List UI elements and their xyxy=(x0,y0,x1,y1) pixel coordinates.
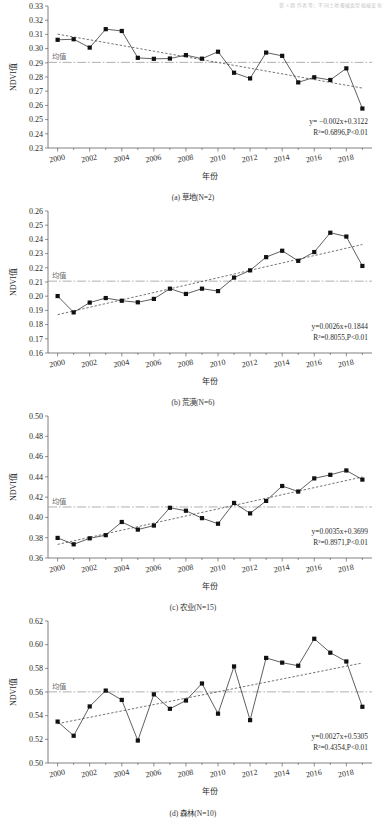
y-axis-title: NDVI值 xyxy=(8,63,18,91)
data-point-marker xyxy=(328,651,332,655)
x-axis-title: 年份 xyxy=(202,376,218,386)
panel-c: 0.360.380.400.420.440.460.480.5020002002… xyxy=(0,410,386,615)
panel-b: 0.160.170.180.190.200.210.220.230.240.25… xyxy=(0,205,386,410)
data-point-marker xyxy=(296,259,300,263)
axis-frame xyxy=(48,6,372,148)
x-tick-label: 2010 xyxy=(209,563,226,575)
data-point-marker xyxy=(248,268,252,272)
x-tick-label: 2008 xyxy=(177,153,194,165)
mean-label: 均值 xyxy=(52,682,67,691)
y-tick-label: 0.54 xyxy=(29,711,43,720)
x-tick-label: 2006 xyxy=(145,768,162,780)
y-tick-label: 0.23 xyxy=(29,249,43,258)
x-axis-title: 年份 xyxy=(202,786,218,796)
y-tick-label: 0.33 xyxy=(29,2,43,11)
y-tick-label: 0.29 xyxy=(29,59,43,68)
data-series-line xyxy=(58,233,363,313)
data-point-marker xyxy=(168,707,172,711)
y-axis-title: NDVI值 xyxy=(8,473,18,501)
chart-a: 0.230.240.250.260.270.280.290.300.310.32… xyxy=(0,0,386,205)
data-point-marker xyxy=(56,536,60,540)
data-point-marker xyxy=(232,501,236,505)
regression-stats: R²=0.6896,P<0.01 xyxy=(313,128,368,137)
chart-c: 0.360.380.400.420.440.460.480.5020002002… xyxy=(0,410,386,615)
data-point-marker xyxy=(232,276,236,280)
x-tick-label: 2010 xyxy=(209,153,226,165)
data-point-marker xyxy=(328,78,332,82)
data-point-marker xyxy=(216,712,220,716)
y-tick-label: 0.20 xyxy=(29,292,43,301)
x-tick-label: 2004 xyxy=(113,358,130,370)
data-point-marker xyxy=(312,637,316,641)
data-point-marker xyxy=(184,292,188,296)
chart-b: 0.160.170.180.190.200.210.220.230.240.25… xyxy=(0,205,386,410)
data-point-marker xyxy=(296,664,300,668)
y-tick-label: 0.25 xyxy=(29,221,43,230)
x-tick-label: 2018 xyxy=(337,563,354,575)
data-point-marker xyxy=(360,705,364,709)
data-point-marker xyxy=(88,536,92,540)
data-point-marker xyxy=(184,53,188,57)
data-point-marker xyxy=(104,296,108,300)
data-point-marker xyxy=(200,516,204,520)
data-point-marker xyxy=(360,478,364,482)
y-tick-label: 0.25 xyxy=(29,115,43,124)
data-point-marker xyxy=(152,692,156,696)
data-point-marker xyxy=(216,50,220,54)
data-point-marker xyxy=(264,50,268,54)
x-tick-label: 2018 xyxy=(337,768,354,780)
mean-label: 均值 xyxy=(52,271,67,280)
x-axis-title: 年份 xyxy=(202,171,218,181)
data-point-marker xyxy=(184,509,188,513)
y-tick-label: 0.52 xyxy=(29,735,43,744)
data-point-marker xyxy=(56,38,60,42)
data-point-marker xyxy=(232,664,236,668)
y-tick-label: 0.40 xyxy=(29,513,43,522)
data-point-marker xyxy=(120,520,124,524)
x-tick-label: 2012 xyxy=(241,153,258,165)
data-point-marker xyxy=(248,511,252,515)
y-tick-label: 0.48 xyxy=(29,432,43,441)
y-tick-label: 0.18 xyxy=(29,320,43,329)
y-tick-label: 0.30 xyxy=(29,44,43,53)
x-tick-label: 2004 xyxy=(113,153,130,165)
y-tick-label: 0.60 xyxy=(29,640,43,649)
x-tick-label: 2000 xyxy=(48,768,65,780)
data-point-marker xyxy=(200,287,204,291)
y-tick-label: 0.36 xyxy=(29,554,43,563)
data-point-marker xyxy=(120,29,124,33)
data-point-marker xyxy=(280,661,284,665)
trend-line xyxy=(58,34,363,88)
data-point-marker xyxy=(232,71,236,75)
data-point-marker xyxy=(104,27,108,31)
data-point-marker xyxy=(152,297,156,301)
data-point-marker xyxy=(104,533,108,537)
caption-b: (b) 荒漠(N=6) xyxy=(0,396,386,407)
data-point-marker xyxy=(360,106,364,110)
axis-frame xyxy=(48,211,372,353)
y-tick-label: 0.24 xyxy=(29,130,43,139)
x-tick-label: 2006 xyxy=(145,358,162,370)
data-point-marker xyxy=(360,264,364,268)
panel-a: 0.230.240.250.260.270.280.290.300.310.32… xyxy=(0,0,386,205)
y-axis-title: NDVI值 xyxy=(8,268,18,296)
data-point-marker xyxy=(216,522,220,526)
x-tick-label: 2002 xyxy=(81,768,98,780)
data-point-marker xyxy=(344,468,348,472)
data-point-marker xyxy=(312,476,316,480)
x-tick-label: 2014 xyxy=(273,768,290,780)
data-point-marker xyxy=(72,310,76,314)
caption-a: (a) 草地(N=2) xyxy=(0,191,386,202)
data-point-marker xyxy=(88,704,92,708)
data-point-marker xyxy=(200,681,204,685)
x-tick-label: 2014 xyxy=(273,563,290,575)
data-point-marker xyxy=(120,299,124,303)
data-point-marker xyxy=(296,489,300,493)
data-point-marker xyxy=(280,249,284,253)
data-point-marker xyxy=(152,57,156,61)
mean-label: 均值 xyxy=(52,52,67,61)
data-point-marker xyxy=(120,698,124,702)
data-point-marker xyxy=(72,734,76,738)
data-point-marker xyxy=(280,484,284,488)
y-tick-label: 0.50 xyxy=(29,759,43,768)
